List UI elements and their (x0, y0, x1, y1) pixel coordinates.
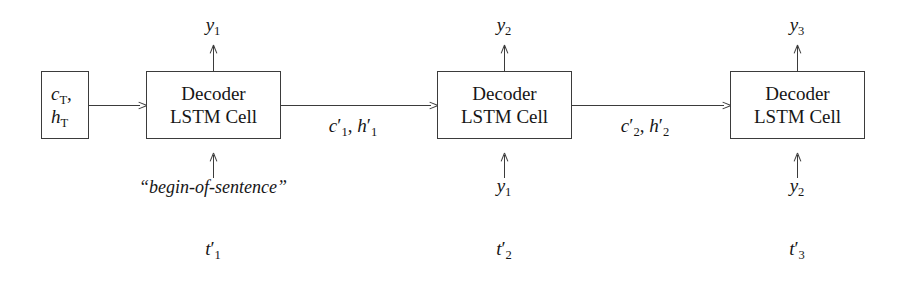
output-label-y3: y3 (790, 14, 805, 36)
decoder-cell-3-line1: Decoder (765, 82, 829, 105)
output-label-y2: y2 (497, 14, 512, 36)
decoder-cell-1[interactable]: Decoder LSTM Cell (146, 71, 281, 139)
diagram-canvas: cT, hT Decoder LSTM Cell y1 “begin-of-se… (0, 0, 907, 284)
decoder-cell-1-line1: Decoder (181, 82, 245, 105)
timestep-label-3: t′3 (789, 238, 805, 260)
connector-cell2-to-cell3 (572, 105, 724, 106)
decoder-cell-2[interactable]: Decoder LSTM Cell (437, 71, 572, 139)
edge-label-c1-h1: c′1, h′1 (329, 115, 377, 137)
decoder-cell-3[interactable]: Decoder LSTM Cell (730, 71, 865, 139)
connector-state-to-cell1 (89, 105, 140, 106)
initial-state-box: cT, hT (41, 71, 89, 139)
initial-state-h: hT (51, 105, 68, 128)
edge-label-c2-h2: c′2, h′2 (621, 115, 669, 137)
decoder-cell-2-line1: Decoder (472, 82, 536, 105)
decoder-cell-2-line2: LSTM Cell (461, 105, 548, 128)
decoder-cell-3-line2: LSTM Cell (754, 105, 841, 128)
connector-cell1-to-cell2 (281, 105, 431, 106)
decoder-cell-1-line2: LSTM Cell (170, 105, 257, 128)
timestep-label-1: t′1 (205, 238, 221, 260)
input-label-begin-of-sentence: “begin-of-sentence” (139, 177, 287, 198)
input-label-y1: y1 (497, 175, 512, 197)
initial-state-c: cT, (51, 82, 72, 105)
connector-cell1-input (213, 155, 214, 178)
input-label-y2: y2 (790, 175, 805, 197)
output-label-y1: y1 (206, 14, 221, 36)
timestep-label-2: t′2 (496, 238, 512, 260)
